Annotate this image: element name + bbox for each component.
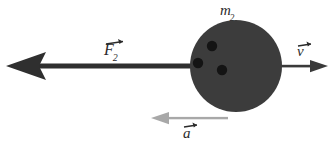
diagram-vector-layer bbox=[0, 0, 332, 153]
mass-circle bbox=[190, 20, 282, 112]
label-velocity-symbol: v bbox=[297, 43, 304, 59]
label-force-subscript: 2 bbox=[113, 52, 118, 63]
mass-dot-3 bbox=[217, 65, 227, 75]
force-arrow-F2 bbox=[6, 52, 200, 80]
label-acceleration-a: a bbox=[183, 126, 191, 141]
velocity-arrow-head bbox=[310, 60, 328, 72]
label-velocity-v: v bbox=[297, 44, 304, 59]
acceleration-arrow-shaft bbox=[165, 117, 228, 119]
velocity-arrow-v bbox=[276, 60, 328, 72]
mass-dot-1 bbox=[207, 41, 217, 51]
mass-dot-2 bbox=[193, 58, 203, 68]
mass-m2 bbox=[190, 20, 282, 112]
label-acceleration-symbol: a bbox=[183, 125, 191, 141]
acceleration-arrow-a bbox=[151, 112, 228, 124]
label-mass-subscript: 2 bbox=[230, 13, 235, 23]
force-arrow-shaft bbox=[32, 64, 200, 69]
physics-diagram-canvas: m2 F2 v a bbox=[0, 0, 332, 153]
label-force-F2: F2 bbox=[104, 42, 119, 61]
label-mass-m2: m2 bbox=[220, 3, 236, 21]
acceleration-arrow-head bbox=[151, 112, 169, 124]
